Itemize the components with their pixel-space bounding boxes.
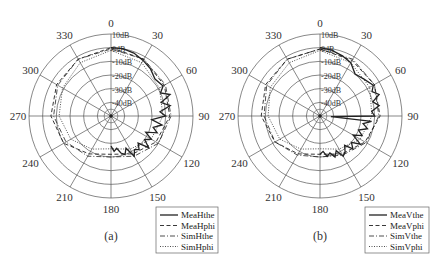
angle-label: 60	[186, 64, 198, 76]
grid-spoke	[320, 75, 391, 116]
ring-label: 10dB	[321, 31, 338, 40]
grid-spoke	[111, 116, 152, 187]
legend-label: MeaHphi	[181, 221, 215, 231]
angle-label: 120	[183, 157, 200, 169]
center-dot	[318, 114, 322, 118]
angle-label: 330	[56, 29, 73, 41]
angle-label: 240	[22, 157, 39, 169]
polar-charts: 030609012015018021024027030033010dB0dB-1…	[0, 0, 433, 259]
angle-label: 180	[312, 203, 329, 215]
grid-spoke	[279, 116, 320, 187]
subplot-caption: (b)	[313, 229, 327, 243]
polar-chart-a: 030609012015018021024027030033010dB0dB-1…	[10, 17, 218, 253]
angle-label: 60	[395, 64, 407, 76]
subplot-caption: (a)	[104, 229, 117, 243]
grid-spoke	[111, 75, 182, 116]
angle-label: 180	[103, 203, 120, 215]
legend-label: MeaVthe	[390, 210, 424, 220]
grid-spoke	[111, 116, 182, 157]
legend-label: SimVthe	[390, 231, 422, 241]
polar-chart-b: 030609012015018021024027030033010dB0dB-1…	[219, 17, 429, 253]
grid-spoke	[320, 116, 391, 157]
ring-label: -40dB	[112, 99, 132, 108]
ring-label: -10dB	[112, 58, 132, 67]
ring-label: 10dB	[112, 31, 129, 40]
legend: MeaVtheMeaVphiSimVtheSimVphi	[365, 207, 429, 253]
angle-label: 90	[408, 110, 420, 122]
angle-label: 330	[265, 29, 282, 41]
angle-label: 90	[199, 110, 211, 122]
legend-label: SimHthe	[181, 231, 213, 241]
ring-label: -30dB	[112, 86, 132, 95]
angle-label: 300	[231, 64, 248, 76]
ring-label: -20dB	[321, 72, 341, 81]
center-dot	[109, 114, 113, 118]
angle-label: 120	[392, 157, 409, 169]
grid-spoke	[249, 116, 320, 157]
legend-label: MeaHthe	[181, 210, 215, 220]
angle-label: 150	[149, 191, 166, 203]
grid-spoke	[249, 75, 320, 116]
angle-label: 270	[219, 110, 236, 122]
grid-spoke	[70, 116, 111, 187]
angle-label: 0	[108, 17, 114, 29]
angle-label: 30	[361, 29, 373, 41]
angle-label: 30	[152, 29, 164, 41]
angle-label: 240	[231, 157, 248, 169]
angle-label: 0	[317, 17, 323, 29]
angle-label: 210	[56, 191, 73, 203]
grid-spoke	[70, 45, 111, 116]
legend-label: SimHphi	[181, 242, 214, 252]
legend-label: MeaVphi	[390, 221, 424, 231]
angle-label: 210	[265, 191, 282, 203]
ring-label: -40dB	[321, 99, 341, 108]
grid-spoke	[40, 116, 111, 157]
series-meahphi	[51, 48, 170, 155]
grid-spoke	[320, 116, 361, 187]
angle-label: 300	[22, 64, 39, 76]
ring-label: -30dB	[321, 86, 341, 95]
angle-label: 150	[358, 191, 375, 203]
ring-label: -10dB	[321, 58, 341, 67]
legend: MeaHtheMeaHphiSimHtheSimHphi	[156, 207, 218, 253]
angle-label: 270	[10, 110, 27, 122]
ring-label: -20dB	[112, 72, 132, 81]
legend-label: SimVphi	[390, 242, 423, 252]
grid-spoke	[40, 75, 111, 116]
